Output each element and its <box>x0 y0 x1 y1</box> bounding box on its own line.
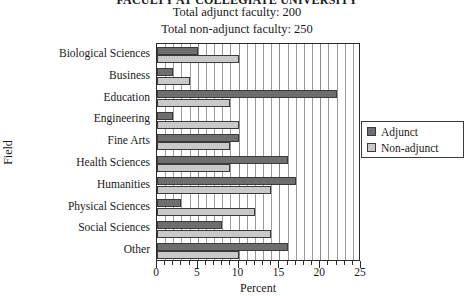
legend: Adjunct Non-adjunct <box>361 121 464 158</box>
chart-subtitle-adjunct-total: Total adjunct faculty: 200 <box>0 5 474 20</box>
x-axis-tick-label: 20 <box>304 266 334 278</box>
x-axis-tick-label: 10 <box>223 266 253 278</box>
x-axis-tick <box>344 261 345 265</box>
bar-nonadjunct <box>157 55 239 63</box>
bar-nonadjunct <box>157 99 230 107</box>
x-axis-tick-label: 15 <box>263 266 293 278</box>
x-axis-title: Percent <box>156 281 360 296</box>
bar-nonadjunct <box>157 121 239 129</box>
y-axis-labels: Biological SciencesBusinessEducationEngi… <box>0 43 150 261</box>
x-axis-tick <box>327 261 328 265</box>
bar-adjunct <box>157 134 239 142</box>
x-axis-tick <box>229 261 230 265</box>
y-axis-label: Engineering <box>0 113 150 124</box>
bar-nonadjunct <box>157 77 190 85</box>
x-axis-tick <box>311 261 312 265</box>
x-axis-tick <box>336 261 337 265</box>
legend-label-adjunct: Adjunct <box>381 126 418 138</box>
bar-adjunct <box>157 112 173 120</box>
bar-nonadjunct <box>157 208 255 216</box>
bar-nonadjunct <box>157 186 271 194</box>
bar-nonadjunct <box>157 251 239 259</box>
x-axis-tick-labels: 0510152025 <box>0 266 474 282</box>
x-axis-tick <box>254 261 255 265</box>
x-axis-tick <box>303 261 304 265</box>
bar-nonadjunct <box>157 230 271 238</box>
bar-nonadjunct <box>157 142 230 150</box>
bar-adjunct <box>157 156 288 164</box>
x-axis-tick <box>270 261 271 265</box>
bar-nonadjunct <box>157 164 230 172</box>
bar-adjunct <box>157 243 288 251</box>
y-axis-label: Humanities <box>0 179 150 190</box>
x-axis-tick-label: 25 <box>345 266 375 278</box>
y-axis-label: Business <box>0 70 150 81</box>
bar-adjunct <box>157 177 296 185</box>
legend-label-nonadjunct: Non-adjunct <box>381 142 438 154</box>
bar-adjunct <box>157 90 337 98</box>
x-axis-tick-label: 0 <box>141 266 171 278</box>
y-axis-label: Fine Arts <box>0 135 150 146</box>
legend-item-nonadjunct[interactable]: Non-adjunct <box>367 140 438 155</box>
bar-adjunct <box>157 199 181 207</box>
chart-subtitle-nonadjunct-total: Total non-adjunct faculty: 250 <box>0 22 474 37</box>
x-axis-tick <box>287 261 288 265</box>
bar-adjunct <box>157 68 173 76</box>
x-axis-tick <box>180 261 181 265</box>
x-axis-tick <box>221 261 222 265</box>
bar-adjunct <box>157 47 198 55</box>
x-axis-tick <box>352 261 353 265</box>
x-axis-tick <box>295 261 296 265</box>
plot-area <box>156 43 360 261</box>
y-axis-label: Health Sciences <box>0 157 150 168</box>
y-axis-label: Social Sciences <box>0 222 150 233</box>
y-axis-label: Education <box>0 92 150 103</box>
y-axis-label: Physical Sciences <box>0 201 150 212</box>
x-axis-tick <box>172 261 173 265</box>
x-axis-tick <box>213 261 214 265</box>
x-axis-tick <box>205 261 206 265</box>
legend-item-adjunct[interactable]: Adjunct <box>367 124 418 139</box>
y-axis-label: Biological Sciences <box>0 48 150 59</box>
legend-swatch-adjunct-icon <box>367 127 376 136</box>
x-axis-tick <box>246 261 247 265</box>
x-axis-tick-label: 5 <box>182 266 212 278</box>
y-axis-label: Other <box>0 244 150 255</box>
legend-swatch-nonadjunct-icon <box>367 143 376 152</box>
x-axis-tick <box>189 261 190 265</box>
bar-adjunct <box>157 221 222 229</box>
x-axis-tick <box>164 261 165 265</box>
x-axis-tick <box>262 261 263 265</box>
chart-page: FACULTY AT COLLEGIATE UNIVERSITY Total a… <box>0 0 474 296</box>
bars-layer <box>157 44 359 260</box>
